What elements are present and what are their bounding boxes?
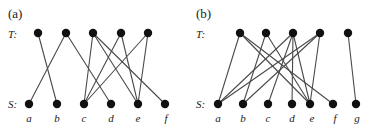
top-vertex-t4 bbox=[316, 29, 324, 37]
bottom-vertex-g bbox=[352, 100, 360, 108]
vertex-label-a: a bbox=[215, 112, 221, 124]
bottom-vertex-d bbox=[288, 100, 296, 108]
vertex-label-c: c bbox=[82, 112, 87, 124]
vertex-label-c: c bbox=[266, 112, 271, 124]
vertex-label-e: e bbox=[310, 112, 315, 124]
top-vertex-t1 bbox=[34, 29, 42, 37]
top-vertex-t1 bbox=[236, 29, 244, 37]
top-vertex-t2 bbox=[62, 29, 70, 37]
bottom-vertex-d bbox=[107, 100, 115, 108]
top-vertex-t4 bbox=[117, 29, 125, 37]
vertex-label-b: b bbox=[54, 112, 60, 124]
bottom-vertex-e bbox=[134, 100, 142, 108]
bottom-vertex-b bbox=[239, 100, 247, 108]
top-vertex-t5 bbox=[144, 29, 152, 37]
top-vertex-t3 bbox=[89, 29, 97, 37]
vertex-label-a: a bbox=[26, 112, 32, 124]
top-vertex-t2 bbox=[262, 29, 270, 37]
bottom-row-label: S: bbox=[196, 98, 205, 110]
bottom-vertex-f bbox=[329, 100, 337, 108]
vertex-label-g: g bbox=[354, 112, 360, 124]
top-vertex-t5 bbox=[344, 29, 352, 37]
bottom-vertex-f bbox=[161, 100, 169, 108]
bottom-vertex-a bbox=[214, 100, 222, 108]
vertex-label-b: b bbox=[240, 112, 246, 124]
bottom-vertex-e bbox=[306, 100, 314, 108]
bottom-row-label: S: bbox=[8, 98, 17, 110]
panel-label: (b) bbox=[196, 6, 211, 21]
vertex-label-d: d bbox=[289, 112, 295, 124]
bottom-vertex-c bbox=[80, 100, 88, 108]
bottom-vertex-c bbox=[264, 100, 272, 108]
top-row-label: T: bbox=[196, 28, 205, 40]
bipartite-graph-figure: (a)T:S:abcdef(b)T:S:abcdefg bbox=[0, 0, 385, 131]
bottom-vertex-b bbox=[53, 100, 61, 108]
bottom-vertex-a bbox=[25, 100, 33, 108]
panel-label: (a) bbox=[8, 6, 22, 21]
top-row-label: T: bbox=[8, 28, 17, 40]
vertex-label-e: e bbox=[136, 112, 141, 124]
vertex-label-d: d bbox=[108, 112, 114, 124]
top-vertex-t3 bbox=[289, 29, 297, 37]
